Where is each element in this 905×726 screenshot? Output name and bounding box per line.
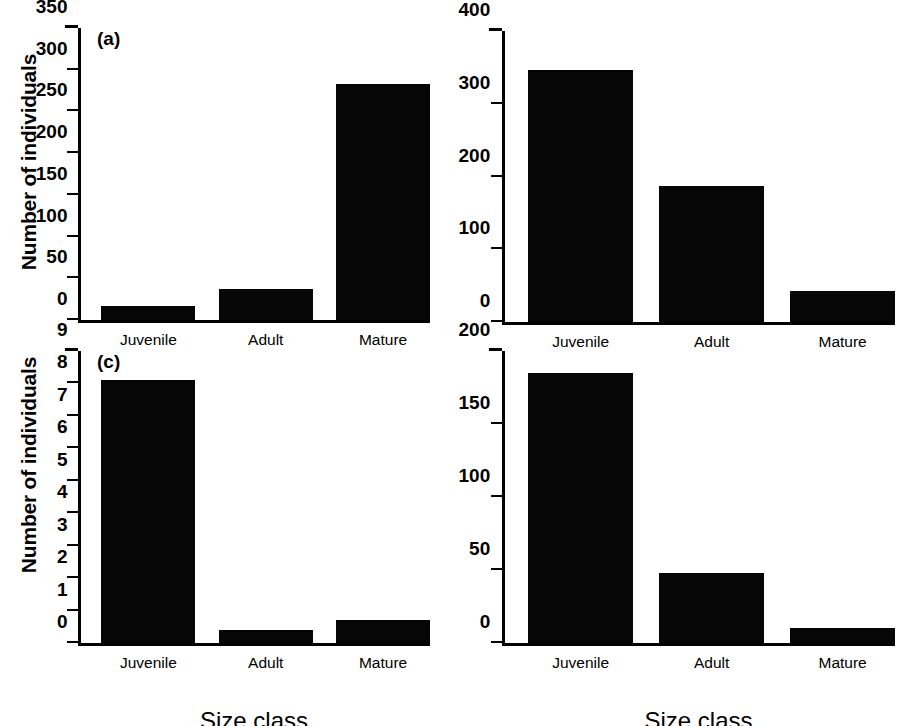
y-tick <box>489 28 502 31</box>
x-axis-line-c <box>78 643 430 646</box>
y-tick <box>491 102 502 104</box>
y-tick-label: 250 <box>36 79 68 101</box>
y-tick-label: 5 <box>57 448 68 470</box>
bar-adult <box>659 573 764 643</box>
panel-a: Number of individuals (a) 05010015020025… <box>0 0 450 363</box>
plot-area-a: 050100150200250300350 JuvenileAdultMatur… <box>78 28 430 320</box>
y-tick <box>67 235 78 237</box>
y-axis-line-a <box>78 28 81 320</box>
y-tick <box>67 544 78 546</box>
y-tick <box>491 175 502 177</box>
x-tick-label: Adult <box>248 654 283 672</box>
bar-mature <box>790 291 895 322</box>
bar-juvenile <box>528 70 633 322</box>
y-tick <box>67 193 78 195</box>
y-tick-label: 7 <box>57 383 68 405</box>
x-axis-title-d: Size class <box>502 707 895 726</box>
bar-adult <box>659 186 764 322</box>
y-tick-label: 100 <box>36 204 68 226</box>
plot-area-d: 050100150200 JuvenileAdultMature <box>502 351 895 643</box>
bar-adult <box>219 630 313 643</box>
y-tick-label: 4 <box>57 481 68 503</box>
y-tick <box>67 609 78 611</box>
y-tick-label: 0 <box>480 290 491 312</box>
y-axis-line-b <box>502 31 505 322</box>
y-tick <box>491 568 502 570</box>
y-tick-label: 300 <box>36 37 68 59</box>
y-tick-label: 0 <box>57 611 68 633</box>
y-tick <box>491 422 502 424</box>
y-tick-label: 400 <box>459 0 491 21</box>
y-tick-label: 150 <box>459 392 491 414</box>
y-tick-label: 3 <box>57 513 68 535</box>
y-tick-label: 1 <box>57 578 68 600</box>
y-axis-line-c <box>78 351 81 643</box>
y-tick <box>67 446 78 448</box>
panel-d: (d) 050100150200 JuvenileAdultMature Siz… <box>450 323 905 726</box>
panel-c: Number of individuals (c) 0123456789 Juv… <box>0 323 450 726</box>
y-tick-label: 350 <box>36 0 68 18</box>
y-tick <box>67 641 78 643</box>
y-tick <box>67 479 78 481</box>
bar-mature <box>336 84 430 320</box>
y-tick <box>65 348 78 351</box>
y-tick <box>489 348 502 351</box>
x-tick-label: Mature <box>818 654 866 672</box>
x-tick-label: Adult <box>694 654 729 672</box>
plot-area-c: 0123456789 JuvenileAdultMature <box>78 351 430 643</box>
y-tick <box>491 247 502 249</box>
y-axis-title-c: Number of individuals <box>17 355 41 575</box>
panel-b: (b) 0100200300400 JuvenileAdultMature <box>450 0 905 363</box>
y-tick <box>67 68 78 70</box>
y-tick-label: 9 <box>57 319 68 341</box>
y-tick-label: 200 <box>459 319 491 341</box>
bar-adult <box>219 289 313 320</box>
y-tick-label: 100 <box>459 217 491 239</box>
y-tick-label: 50 <box>469 538 490 560</box>
x-tick-label: Mature <box>359 654 407 672</box>
y-tick-label: 8 <box>57 351 68 373</box>
y-tick <box>67 576 78 578</box>
bar-mature <box>790 628 895 643</box>
bar-juvenile <box>528 373 633 643</box>
bar-mature <box>336 620 430 643</box>
y-tick-label: 200 <box>459 144 491 166</box>
y-tick-label: 0 <box>480 611 491 633</box>
y-tick-label: 300 <box>459 71 491 93</box>
y-tick <box>67 109 78 111</box>
y-tick <box>491 641 502 643</box>
x-tick-label: Juvenile <box>120 654 177 672</box>
bar-juvenile <box>101 306 195 320</box>
y-tick <box>67 511 78 513</box>
y-tick <box>491 495 502 497</box>
y-tick-label: 0 <box>57 288 68 310</box>
y-tick <box>65 25 78 28</box>
y-tick <box>67 276 78 278</box>
y-axis-line-d <box>502 351 505 643</box>
plot-area-b: 0100200300400 JuvenileAdultMature <box>502 31 895 322</box>
bar-juvenile <box>101 380 195 643</box>
y-tick <box>67 381 78 383</box>
y-tick-label: 2 <box>57 546 68 568</box>
y-tick-label: 100 <box>459 465 491 487</box>
y-tick <box>67 414 78 416</box>
y-tick-label: 200 <box>36 121 68 143</box>
y-tick <box>67 151 78 153</box>
figure-four-panel-bar-charts: Number of individuals (a) 05010015020025… <box>0 0 905 726</box>
y-tick-label: 150 <box>36 162 68 184</box>
x-axis-title-c: Size class <box>78 707 430 726</box>
y-tick-label: 50 <box>46 246 67 268</box>
y-tick-label: 6 <box>57 416 68 438</box>
x-axis-line-d <box>502 643 895 646</box>
y-tick <box>491 320 502 322</box>
x-tick-label: Juvenile <box>552 654 609 672</box>
y-tick <box>67 318 78 320</box>
